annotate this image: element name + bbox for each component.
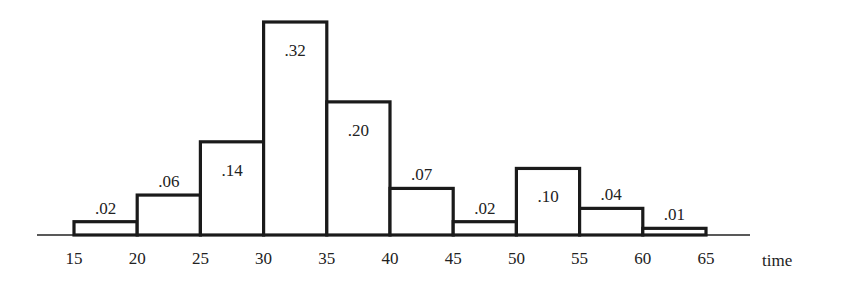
x-tick-label: 15 xyxy=(66,249,83,268)
bar-value-label: .02 xyxy=(474,199,495,218)
bar-value-label: .32 xyxy=(285,41,306,60)
bar-value-label: .10 xyxy=(537,187,558,206)
x-tick-label: 20 xyxy=(129,249,146,268)
x-tick-label: 45 xyxy=(445,249,462,268)
bar-value-label: .14 xyxy=(221,161,243,180)
x-axis-label: time xyxy=(762,251,792,270)
x-tick-label: 25 xyxy=(192,249,209,268)
bar-value-label: .01 xyxy=(664,205,685,224)
histogram-bar xyxy=(200,142,263,235)
x-tick-label: 30 xyxy=(255,249,272,268)
histogram-bar xyxy=(580,208,643,235)
histogram-bar xyxy=(643,228,706,235)
histogram-bar xyxy=(453,222,516,235)
x-tick-label: 35 xyxy=(318,249,335,268)
histogram-bar xyxy=(390,188,453,235)
x-tick-label: 65 xyxy=(698,249,715,268)
bar-value-label: .07 xyxy=(411,165,433,184)
histogram-bar xyxy=(74,222,137,235)
bar-value-label: .06 xyxy=(158,172,179,191)
x-tick-labels: 1520253035404550556065 xyxy=(66,249,715,268)
histogram-bar xyxy=(137,195,200,235)
bar-value-label: .20 xyxy=(348,121,369,140)
x-tick-label: 50 xyxy=(508,249,525,268)
x-tick-label: 55 xyxy=(571,249,588,268)
bar-value-label: .02 xyxy=(95,199,116,218)
x-tick-label: 60 xyxy=(634,249,651,268)
histogram-chart: .02.06.14.32.20.07.02.10.04.01 152025303… xyxy=(0,0,842,289)
bar-value-label: .04 xyxy=(601,185,623,204)
x-tick-label: 40 xyxy=(382,249,399,268)
